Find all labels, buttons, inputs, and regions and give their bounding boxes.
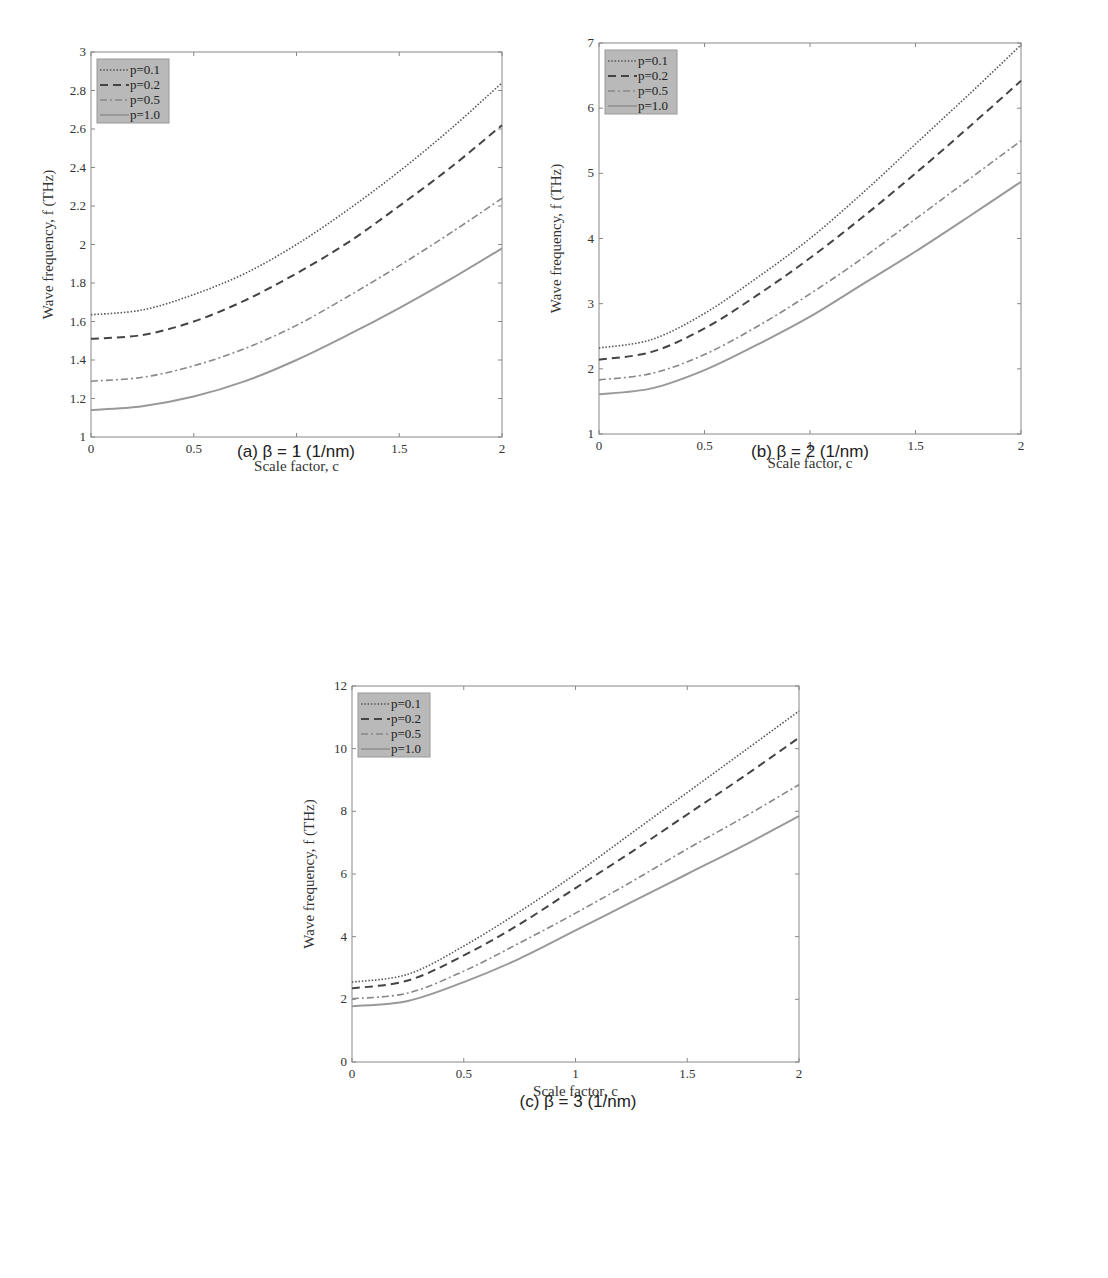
y-tick-label: 5 [588, 165, 595, 180]
y-tick-label: 1.8 [70, 275, 86, 290]
caption-b: (b) β = 2 (1/nm) [710, 442, 910, 462]
chart-panel-a: 00.511.5211.21.41.61.822.22.42.62.83Scal… [40, 44, 505, 474]
y-axis-label: Wave frequency, f (THz) [301, 799, 318, 948]
caption-c: (c) β = 3 (1/nm) [478, 1092, 678, 1112]
y-tick-label: 2.4 [70, 160, 87, 175]
caption-a: (a) β = 1 (1/nm) [196, 442, 396, 462]
x-tick-label: 1 [572, 1066, 579, 1081]
legend: p=0.1p=0.2p=0.5p=1.0 [97, 59, 169, 123]
y-tick-label: 2.6 [70, 121, 87, 136]
legend-label: p=0.2 [638, 68, 668, 83]
y-axis-label: Wave frequency, f (THz) [40, 170, 57, 319]
legend: p=0.1p=0.2p=0.5p=1.0 [358, 693, 430, 757]
y-tick-label: 2 [341, 991, 348, 1006]
legend-label: p=0.1 [391, 696, 421, 711]
x-tick-label: 2 [796, 1066, 803, 1081]
legend-label: p=0.1 [130, 62, 160, 77]
legend: p=0.1p=0.2p=0.5p=1.0 [605, 50, 677, 114]
y-tick-label: 2 [588, 361, 595, 376]
y-tick-label: 4 [341, 929, 348, 944]
y-tick-label: 2 [80, 237, 87, 252]
chart-panel-b: 00.511.521234567Scale factor, cWave freq… [548, 35, 1024, 471]
y-tick-label: 1 [80, 429, 87, 444]
y-tick-label: 1.6 [70, 314, 87, 329]
legend-label: p=0.5 [130, 92, 160, 107]
legend-label: p=1.0 [130, 107, 160, 122]
y-tick-label: 3 [588, 296, 595, 311]
x-tick-label: 0 [88, 441, 95, 456]
x-tick-label: 0 [349, 1066, 356, 1081]
y-tick-label: 7 [588, 35, 595, 50]
x-tick-label: 1.5 [679, 1066, 695, 1081]
y-tick-label: 0 [341, 1054, 348, 1069]
y-tick-label: 10 [334, 741, 347, 756]
figure: 00.511.5211.21.41.61.822.22.42.62.83Scal… [0, 0, 1108, 1278]
chart-panel-c: 00.511.52024681012Scale factor, cWave fr… [301, 678, 802, 1099]
y-tick-label: 2.8 [70, 83, 86, 98]
y-tick-label: 1.2 [70, 391, 86, 406]
y-tick-label: 4 [588, 231, 595, 246]
y-tick-label: 2.2 [70, 198, 86, 213]
y-tick-label: 1.4 [70, 352, 87, 367]
legend-label: p=0.5 [638, 83, 668, 98]
x-tick-label: 2 [499, 441, 506, 456]
legend-label: p=0.1 [638, 53, 668, 68]
y-tick-label: 12 [334, 678, 347, 693]
x-tick-label: 0.5 [456, 1066, 472, 1081]
y-tick-label: 8 [341, 803, 348, 818]
figure-canvas: 00.511.5211.21.41.61.822.22.42.62.83Scal… [0, 0, 1108, 1278]
y-tick-label: 3 [80, 44, 87, 59]
legend-label: p=1.0 [638, 98, 668, 113]
legend-label: p=0.5 [391, 726, 421, 741]
y-tick-label: 6 [588, 100, 595, 115]
legend-label: p=0.2 [130, 77, 160, 92]
y-axis-label: Wave frequency, f (THz) [548, 164, 565, 313]
legend-label: p=0.2 [391, 711, 421, 726]
x-tick-label: 0 [596, 438, 603, 453]
x-tick-label: 2 [1018, 438, 1025, 453]
legend-label: p=1.0 [391, 741, 421, 756]
y-tick-label: 1 [588, 426, 595, 441]
y-tick-label: 6 [341, 866, 348, 881]
